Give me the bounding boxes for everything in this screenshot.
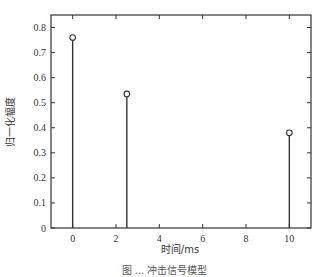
y-tick-label: 0.1 <box>34 197 47 208</box>
y-axis-label: 归一化幅度 <box>4 97 16 147</box>
x-tick-label: 10 <box>284 233 294 244</box>
stem-marker-circle <box>124 91 130 97</box>
y-tick-label: 0.5 <box>34 97 47 108</box>
y-tick-label: 0.7 <box>34 47 47 58</box>
stem <box>287 130 293 228</box>
y-tick-label: 0.6 <box>34 72 47 83</box>
x-tick-label: 8 <box>244 233 249 244</box>
y-tick-label: 0 <box>41 223 46 234</box>
y-tick-label: 0.3 <box>34 147 47 158</box>
x-tick-label: 6 <box>200 233 205 244</box>
x-tick-label: 0 <box>70 233 75 244</box>
axes-box <box>51 15 311 228</box>
x-tick-label: 2 <box>114 233 119 244</box>
x-axis-label: 时间/ms <box>161 243 199 255</box>
x-tick-label: 4 <box>157 233 162 244</box>
x-axis-ticks: 0246810 <box>70 15 294 244</box>
y-tick-label: 0.8 <box>34 22 47 33</box>
data-stems <box>70 35 292 228</box>
stem-marker-circle <box>287 130 293 136</box>
y-tick-label: 0.4 <box>34 122 47 133</box>
stem-marker-circle <box>70 35 76 41</box>
stem <box>70 35 76 228</box>
figure-caption: 图 ... 冲击信号模型 <box>0 262 329 277</box>
y-axis-ticks: 00.10.20.30.40.50.60.70.8 <box>34 22 312 233</box>
stem <box>124 91 130 228</box>
y-tick-label: 0.2 <box>34 172 47 183</box>
